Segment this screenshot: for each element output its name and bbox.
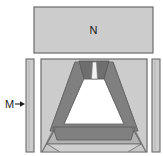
arrow-head-M	[20, 101, 25, 106]
annotation-M: M	[5, 98, 25, 110]
schematic-diagram: N	[0, 0, 163, 156]
neck-slot	[92, 62, 98, 79]
bottom-band-upper	[53, 127, 135, 140]
right-bar-rect	[152, 59, 160, 152]
main-box	[41, 59, 147, 152]
left-bar-M	[26, 59, 34, 152]
right-bar	[152, 59, 160, 152]
figure-canvas: N	[0, 0, 163, 156]
top-block-N: N	[34, 7, 153, 53]
left-bar-rect	[26, 59, 34, 152]
bottom-foot	[47, 144, 141, 152]
side-part-label: M	[5, 98, 14, 110]
top-block-label: N	[90, 24, 98, 36]
